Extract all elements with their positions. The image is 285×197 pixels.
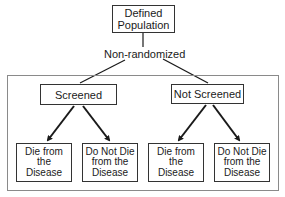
not-screened-box: Not Screened bbox=[171, 84, 244, 104]
screened-not-die-label: Do Not Die from the Disease bbox=[85, 147, 135, 179]
screened-die-box: Die from the Disease bbox=[16, 143, 72, 182]
not-screened-label: Not Screened bbox=[174, 89, 241, 99]
not-screened-not-die-label: Do Not Die from the Disease bbox=[217, 147, 267, 179]
defined-population-label: Defined Population bbox=[113, 7, 174, 31]
screened-label: Screened bbox=[55, 90, 102, 100]
non-randomized-label: Non-randomized bbox=[104, 48, 185, 60]
screened-box: Screened bbox=[40, 84, 117, 105]
screened-die-label: Die from the Disease bbox=[21, 147, 67, 179]
not-screened-not-die-box: Do Not Die from the Disease bbox=[214, 143, 270, 182]
defined-population-box: Defined Population bbox=[112, 5, 175, 33]
not-screened-die-box: Die from the Disease bbox=[148, 143, 204, 182]
screened-not-die-box: Do Not Die from the Disease bbox=[82, 143, 138, 182]
not-screened-die-label: Die from the Disease bbox=[153, 147, 199, 179]
